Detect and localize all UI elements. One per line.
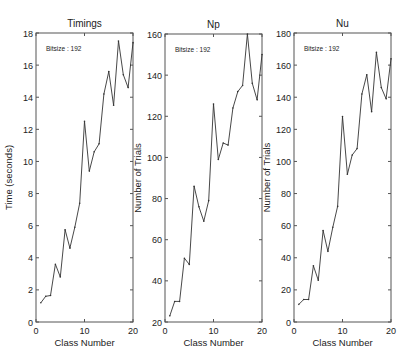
y-tick-label: 40 [281, 253, 291, 263]
data-point [55, 263, 57, 265]
x-tick-label: 20 [257, 326, 267, 336]
data-point [376, 51, 378, 53]
bitsize-annotation: Bitsize : 192 [46, 45, 82, 52]
data-point [356, 148, 358, 150]
data-point [193, 185, 195, 187]
data-point [390, 58, 392, 60]
y-axis-label: Number of Trials [132, 143, 143, 213]
y-tick-label: 80 [152, 194, 162, 204]
data-point [45, 296, 47, 298]
data-point [317, 279, 319, 281]
data-point [169, 315, 171, 317]
data-point [103, 93, 105, 95]
y-tick-label: 6 [28, 221, 33, 231]
y-tick-label: 80 [281, 189, 291, 199]
data-point [179, 301, 181, 303]
data-point [79, 202, 81, 204]
chart-title: Nu [336, 18, 349, 29]
data-point [184, 257, 186, 259]
bitsize-annotation: Bitsize : 192 [175, 46, 211, 53]
y-tick-label: 4 [28, 253, 33, 263]
y-tick-label: 12 [23, 125, 33, 135]
y-axis-label: Time (seconds) [3, 145, 14, 210]
data-point [342, 116, 344, 118]
y-tick-label: 16 [23, 61, 33, 71]
y-tick-label: 10 [23, 157, 33, 167]
x-axis-label: Class Number [312, 337, 372, 348]
data-point [385, 98, 387, 100]
data-point [308, 299, 310, 301]
data-point [93, 151, 95, 153]
data-point [127, 87, 129, 89]
data-point [40, 302, 42, 304]
y-tick-label: 120 [147, 112, 162, 122]
y-tick-label: 140 [147, 71, 162, 81]
data-point [332, 226, 334, 228]
data-point [298, 304, 300, 306]
data-point [123, 74, 125, 76]
data-point [84, 121, 86, 123]
data-point [208, 200, 210, 202]
data-point [188, 264, 190, 266]
data-point [98, 143, 100, 145]
data-point [203, 220, 205, 222]
x-tick-label: 10 [337, 326, 347, 336]
y-tick-label: 20 [281, 285, 291, 295]
data-point [113, 104, 115, 106]
chart-title: Timings [67, 18, 102, 29]
data-point [218, 159, 220, 161]
data-point [337, 206, 339, 208]
data-point [261, 54, 263, 56]
x-tick-label: 0 [291, 326, 296, 336]
data-point [371, 111, 373, 113]
data-point [132, 42, 134, 44]
data-point [366, 74, 368, 76]
y-tick-label: 0 [28, 318, 33, 328]
data-point [174, 301, 176, 303]
y-tick-label: 120 [276, 125, 291, 135]
data-point [227, 144, 229, 146]
y-axis-label: Number of Trials [261, 142, 272, 212]
data-point [242, 85, 244, 87]
y-tick-label: 100 [276, 157, 291, 167]
y-tick-label: 160 [147, 30, 162, 40]
x-tick-label: 0 [162, 326, 167, 336]
y-tick-label: 160 [276, 61, 291, 71]
data-point [69, 247, 71, 249]
x-tick-label: 20 [386, 326, 396, 336]
data-point [74, 226, 76, 228]
y-tick-label: 14 [23, 93, 33, 103]
y-tick-label: 140 [276, 93, 291, 103]
data-series-line [41, 41, 133, 303]
y-tick-label: 40 [152, 276, 162, 286]
data-point [247, 33, 249, 35]
data-point [237, 91, 239, 93]
data-point [361, 93, 363, 95]
data-point [322, 230, 324, 232]
data-point [59, 276, 61, 278]
data-point [256, 99, 258, 101]
axes-box [294, 33, 391, 322]
y-tick-label: 20 [152, 318, 162, 328]
data-point [118, 40, 120, 42]
x-tick-label: 10 [208, 326, 218, 336]
y-tick-label: 8 [28, 189, 33, 199]
y-tick-label: 100 [147, 153, 162, 163]
figure: 02468101214161801020TimingsClass NumberT… [0, 0, 412, 362]
axes-box [36, 33, 133, 322]
x-tick-label: 20 [128, 326, 138, 336]
chart-canvas: 02468101214161801020TimingsClass NumberT… [0, 0, 412, 362]
subplot-timings: 02468101214161801020TimingsClass NumberT… [3, 18, 138, 348]
x-axis-label: Class Number [183, 337, 243, 348]
data-point [303, 299, 305, 301]
data-point [232, 107, 234, 109]
subplot-nu: 02040608010012014016018001020NuClass Num… [261, 18, 396, 348]
data-point [108, 71, 110, 73]
data-point [327, 251, 329, 253]
chart-title: Np [207, 19, 220, 30]
data-point [50, 295, 52, 297]
data-point [313, 265, 315, 267]
data-series-line [299, 52, 391, 304]
data-point [213, 103, 215, 105]
data-point [89, 170, 91, 172]
